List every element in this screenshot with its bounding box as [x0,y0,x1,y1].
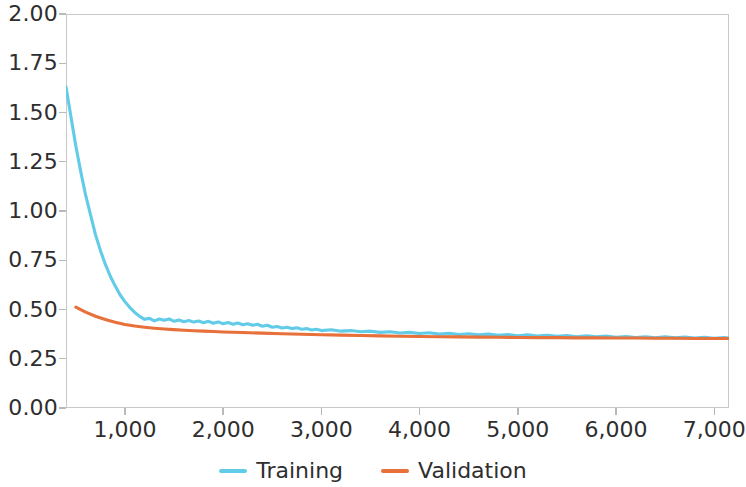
x-axis-tick-label: 5,000 [486,418,549,442]
chart-legend: TrainingValidation [0,455,746,487]
x-axis-tick-label: 4,000 [388,418,451,442]
legend-line-swatch-icon [381,469,409,473]
legend-item-label: Validation [418,459,527,483]
x-axis-tick-label: 3,000 [290,418,353,442]
x-axis-tick-mark [124,408,125,415]
x-axis-tick-label: 2,000 [192,418,255,442]
x-axis-tick-mark [714,408,715,415]
series-line-training [66,87,729,338]
x-axis-tick-label: 6,000 [585,418,648,442]
x-axis-tick-label: 7,000 [683,418,746,442]
x-axis-tick-mark [615,408,616,415]
loss-chart: 0.000.250.500.751.001.251.501.752.00 1,0… [0,0,746,487]
x-axis-tick-mark [517,408,518,415]
legend-item-validation[interactable]: Validation [381,459,527,483]
x-axis-tick-label: 1,000 [93,418,156,442]
legend-item-label: Training [256,459,343,483]
x-axis-tick-mark [222,408,223,415]
legend-line-swatch-icon [219,469,247,473]
plot-lines [66,14,729,408]
x-axis-tick-mark [419,408,420,415]
x-axis-tick-mark [321,408,322,415]
legend-item-training[interactable]: Training [219,459,343,483]
